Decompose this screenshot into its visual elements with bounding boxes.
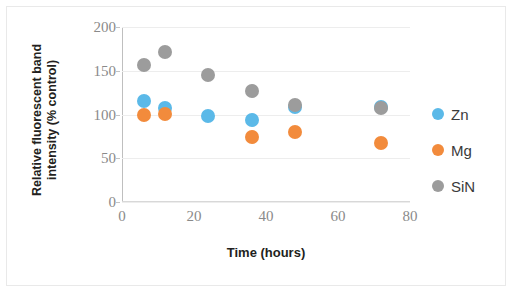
y-tick-mark xyxy=(116,71,120,72)
gridline-y-150 xyxy=(122,71,410,72)
x-tick-label: 40 xyxy=(246,208,286,225)
data-point-sin xyxy=(288,98,302,112)
x-axis-ticks: 020406080 xyxy=(122,208,410,228)
data-point-mg xyxy=(288,125,302,139)
data-point-zn xyxy=(245,113,259,127)
legend-label: Zn xyxy=(451,106,469,123)
y-axis-ticks: 050100150200 xyxy=(66,27,116,202)
data-point-sin xyxy=(374,101,388,115)
data-point-sin xyxy=(137,58,151,72)
plot-area xyxy=(122,27,410,202)
data-point-sin xyxy=(201,68,215,82)
legend-marker-icon xyxy=(432,180,444,192)
data-point-mg xyxy=(374,136,388,150)
y-tick-mark xyxy=(116,158,120,159)
y-tick-mark xyxy=(116,115,120,116)
y-tick-label: 200 xyxy=(70,19,116,36)
x-axis-title: Time (hours) xyxy=(122,245,410,260)
chart-figure: Relative fluorescent band intensity (% c… xyxy=(0,0,512,292)
legend-marker-icon xyxy=(432,108,444,120)
data-point-sin xyxy=(158,45,172,59)
x-tick-label: 60 xyxy=(318,208,358,225)
gridline-y-50 xyxy=(122,158,410,159)
data-point-zn xyxy=(137,94,151,108)
data-point-mg xyxy=(137,108,151,122)
y-tick-mark xyxy=(116,202,120,203)
legend-item-zn[interactable]: Zn xyxy=(432,96,506,132)
y-tick-label: 150 xyxy=(70,62,116,79)
legend-label: Mg xyxy=(451,142,472,159)
data-point-mg xyxy=(245,130,259,144)
y-axis-title: Relative fluorescent band intensity (% c… xyxy=(30,5,60,235)
data-point-zn xyxy=(201,109,215,123)
x-tick-label: 20 xyxy=(174,208,214,225)
legend-item-mg[interactable]: Mg xyxy=(432,132,506,168)
chart-legend: ZnMgSiN xyxy=(432,96,506,204)
y-axis-title-line1: Relative fluorescent band xyxy=(30,44,44,196)
legend-item-sin[interactable]: SiN xyxy=(432,168,506,204)
data-point-sin xyxy=(245,84,259,98)
y-axis-title-line2: intensity (% control) xyxy=(45,60,59,180)
x-tick-label: 80 xyxy=(390,208,430,225)
x-tick-label: 0 xyxy=(102,208,142,225)
y-tick-mark xyxy=(116,27,120,28)
y-tick-label: 50 xyxy=(70,150,116,167)
legend-label: SiN xyxy=(451,178,475,195)
gridline-y-0 xyxy=(122,202,410,203)
data-point-mg xyxy=(158,107,172,121)
gridline-y-200 xyxy=(122,27,410,28)
legend-marker-icon xyxy=(432,144,444,156)
y-tick-label: 100 xyxy=(70,106,116,123)
